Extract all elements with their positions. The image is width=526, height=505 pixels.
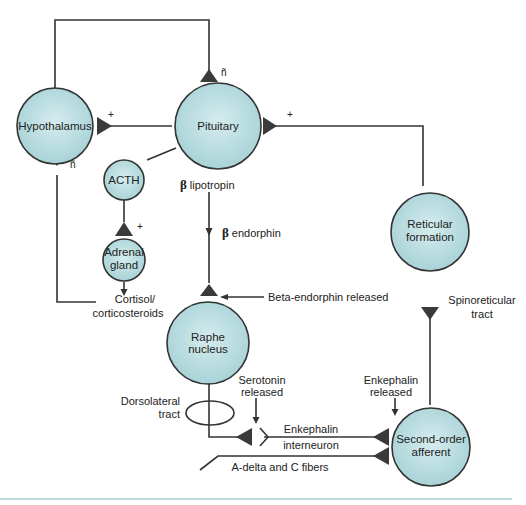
label-reticular-2: formation — [406, 231, 454, 243]
label-fibers: A-delta and C fibers — [231, 461, 329, 473]
dorsolateral-tract-ellipse — [186, 401, 234, 425]
label-adrenal-1: Adrenal — [104, 246, 144, 258]
label-hypothalamus: Hypothalamus — [18, 120, 92, 132]
label-pituitary: Pituitary — [197, 120, 239, 132]
label-enkephalin-released-1: Enkephalin — [364, 374, 418, 386]
label-serotonin-1: Serotonin — [238, 374, 285, 386]
label-second-order-2: afferent — [412, 446, 452, 458]
sign-inhibitory-hypothalamus: ñ — [70, 159, 76, 170]
label-adrenal-2: gland — [110, 259, 138, 271]
sign-excitatory-hypothalamus: + — [108, 109, 114, 120]
label-beta-lipotropin: βlipotropin — [180, 177, 235, 192]
label-reticular-1: Reticular — [407, 218, 453, 230]
sign-excitatory-adrenal: + — [137, 221, 143, 232]
label-cortisol-1: Cortisol/ — [115, 293, 156, 305]
sign-excitatory-reticular: + — [287, 109, 293, 120]
label-spinoreticular-2: tract — [471, 308, 492, 320]
label-enkephalin: Enkephalin — [284, 423, 338, 435]
label-enkephalin-released-2: released — [370, 386, 412, 398]
label-raphe-2: nucleus — [188, 343, 228, 355]
label-spinoreticular-1: Spinoreticular — [448, 294, 516, 306]
label-beta-endorphin: βendorphin — [222, 225, 281, 240]
label-second-order-1: Second-order — [396, 433, 466, 445]
label-dorsolateral-1: Dorsolateral — [121, 395, 180, 407]
label-beta-endorphin-released: Beta-endorphin released — [268, 291, 388, 303]
label-acth: ACTH — [108, 174, 139, 186]
sign-inhibitory-pituitary: ñ — [221, 67, 227, 78]
label-dorsolateral-2: tract — [159, 408, 180, 420]
label-interneuron: interneuron — [283, 439, 339, 451]
label-raphe-1: Raphe — [191, 331, 225, 343]
pain-modulation-diagram: Hypothalamus Pituitary ACTH Adrenal glan… — [0, 0, 526, 505]
label-cortisol-2: corticosteroids — [93, 307, 164, 319]
label-serotonin-2: released — [241, 386, 283, 398]
